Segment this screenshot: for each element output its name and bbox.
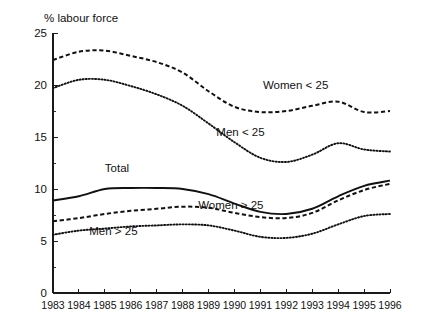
x-tick-label-1994: 1994 bbox=[326, 299, 350, 311]
x-tick-label-1989: 1989 bbox=[197, 299, 221, 311]
series-line-men-25 bbox=[53, 79, 390, 162]
x-tick-label-1993: 1993 bbox=[301, 299, 325, 311]
x-axis-ticks: 1983198419851986198719881989199019911992… bbox=[41, 289, 402, 311]
series-label-men-25: Men < 25 bbox=[216, 126, 264, 138]
x-tick-label-1992: 1992 bbox=[275, 299, 299, 311]
line-chart: % labour force 0510152025 19831984198519… bbox=[0, 0, 421, 324]
series-label-women-25: Women > 25 bbox=[198, 199, 263, 211]
x-tick-label-1987: 1987 bbox=[145, 299, 169, 311]
series-line-women-25 bbox=[53, 50, 390, 112]
x-tick-label-1991: 1991 bbox=[249, 299, 273, 311]
x-tick-label-1988: 1988 bbox=[171, 299, 195, 311]
x-tick-label-1984: 1984 bbox=[67, 299, 91, 311]
series-label-men-25: Men > 25 bbox=[89, 225, 137, 237]
series-label-total: Total bbox=[105, 162, 129, 174]
x-tick-label-1995: 1995 bbox=[352, 299, 376, 311]
series-label-women-25: Women < 25 bbox=[263, 79, 328, 91]
y-tick-label-20: 20 bbox=[34, 79, 47, 91]
x-tick-label-1990: 1990 bbox=[223, 299, 247, 311]
y-tick-label-10: 10 bbox=[34, 183, 47, 195]
y-tick-label-5: 5 bbox=[41, 235, 47, 247]
x-tick-label-1985: 1985 bbox=[93, 299, 117, 311]
y-tick-label-25: 25 bbox=[34, 27, 47, 39]
x-tick-label-1996: 1996 bbox=[378, 299, 402, 311]
y-tick-label-15: 15 bbox=[34, 131, 47, 143]
y-tick-label-0: 0 bbox=[41, 287, 47, 299]
chart-container: % labour force 0510152025 19831984198519… bbox=[0, 0, 421, 324]
x-tick-label-1983: 1983 bbox=[41, 299, 65, 311]
chart-title: % labour force bbox=[44, 12, 118, 24]
x-tick-label-1986: 1986 bbox=[119, 299, 143, 311]
